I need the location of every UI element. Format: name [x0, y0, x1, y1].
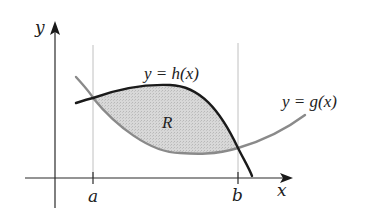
curve-g-label: y = g(x)	[280, 92, 337, 111]
area-between-curves-diagram: y x a b y = h(x) y = g(x) R	[0, 0, 367, 217]
bound-a-label: a	[88, 186, 98, 206]
bound-b-label: b	[232, 185, 243, 205]
region-r-label: R	[161, 113, 173, 132]
y-axis-label: y	[34, 17, 45, 37]
x-axis-label: x	[277, 180, 287, 200]
curve-h-label: y = h(x)	[142, 64, 199, 83]
